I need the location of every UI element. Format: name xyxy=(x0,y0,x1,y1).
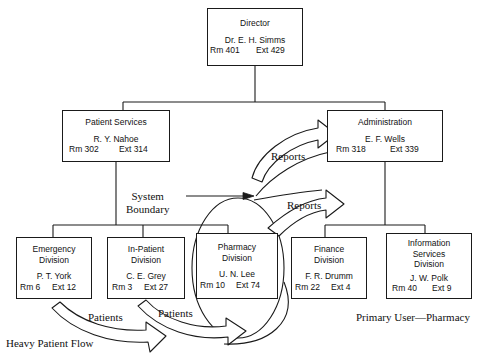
node-emergency-division-room: Rm 6 xyxy=(20,282,52,293)
node-in-patient-division-title: In-Patient xyxy=(128,244,164,255)
node-patient-services-title: Patient Services xyxy=(85,117,146,128)
org-chart-diagram: Director Dr. E. H. Simms Rm 401 Ext 429 … xyxy=(0,0,494,364)
node-pharmacy-division-title2: Division xyxy=(222,253,252,264)
heavy-patient-flow-label: Heavy Patient Flow xyxy=(6,337,93,349)
node-patient-services-room: Rm 302 xyxy=(69,144,119,155)
node-emergency-division[interactable]: Emergency Division P. T. York Rm 6 Ext 1… xyxy=(16,237,92,299)
system-boundary-pointer xyxy=(186,193,254,200)
node-director-person: Dr. E. H. Simms xyxy=(225,35,285,46)
node-administration-ext: Ext 339 xyxy=(390,144,434,155)
node-patient-services-contact: Rm 302 Ext 314 xyxy=(69,144,163,155)
node-information-services-division-ext: Ext 9 xyxy=(432,283,466,294)
node-pharmacy-division-contact: Rm 10 Ext 74 xyxy=(200,280,274,291)
node-administration-title: Administration xyxy=(358,117,412,128)
node-pharmacy-division[interactable]: Pharmacy Division U. N. Lee Rm 10 Ext 74 xyxy=(196,233,278,299)
system-boundary-label-line1: System xyxy=(126,190,169,203)
system-boundary-label-line2: Boundary xyxy=(126,203,169,216)
node-director[interactable]: Director Dr. E. H. Simms Rm 401 Ext 429 xyxy=(207,8,303,66)
node-pharmacy-division-ext: Ext 74 xyxy=(236,280,274,291)
node-in-patient-division-ext: Ext 27 xyxy=(144,282,180,293)
node-patient-services[interactable]: Patient Services R. Y. Nahoe Rm 302 Ext … xyxy=(62,110,170,162)
node-information-services-division-title3: Division xyxy=(414,259,444,270)
node-patient-services-ext: Ext 314 xyxy=(119,144,163,155)
node-in-patient-division-contact: Rm 3 Ext 27 xyxy=(112,282,180,293)
patients-label-1: Patients xyxy=(88,311,123,323)
node-information-services-division-room: Rm 40 xyxy=(392,283,432,294)
node-information-services-division-title: Information xyxy=(408,238,451,249)
node-in-patient-division[interactable]: In-Patient Division C. E. Grey Rm 3 Ext … xyxy=(107,237,185,299)
node-administration-person: E. F. Wells xyxy=(365,134,405,145)
node-finance-division-title: Finance xyxy=(314,244,344,255)
node-in-patient-division-title2: Division xyxy=(131,255,161,266)
node-information-services-division-contact: Rm 40 Ext 9 xyxy=(392,283,466,294)
reports-label-2: Reports xyxy=(287,199,321,211)
node-emergency-division-title2: Division xyxy=(39,255,69,266)
node-pharmacy-division-room: Rm 10 xyxy=(200,280,236,291)
reports-arrow-2 xyxy=(268,190,344,236)
node-finance-division-contact: Rm 22 Ext 4 xyxy=(295,282,363,293)
node-director-ext: Ext 429 xyxy=(256,45,300,56)
node-emergency-division-title: Emergency xyxy=(33,244,76,255)
node-emergency-division-contact: Rm 6 Ext 12 xyxy=(20,282,88,293)
primary-user-label: Primary User—Pharmacy xyxy=(356,311,470,323)
system-boundary-label: System Boundary xyxy=(126,190,169,216)
node-finance-division-ext: Ext 4 xyxy=(331,282,363,293)
node-administration[interactable]: Administration E. F. Wells Rm 318 Ext 33… xyxy=(327,110,443,162)
node-information-services-division-title2: Services xyxy=(413,249,446,260)
node-information-services-division-person: J. W. Polk xyxy=(410,273,448,284)
node-pharmacy-division-person: U. N. Lee xyxy=(219,269,255,280)
node-finance-division-person: F. R. Drumm xyxy=(305,271,353,282)
node-administration-contact: Rm 318 Ext 339 xyxy=(336,144,434,155)
node-finance-division-title2: Division xyxy=(314,255,344,266)
node-patient-services-person: R. Y. Nahoe xyxy=(93,134,138,145)
node-finance-division[interactable]: Finance Division F. R. Drumm Rm 22 Ext 4 xyxy=(291,237,367,299)
node-information-services-division[interactable]: Information Services Division J. W. Polk… xyxy=(386,233,472,299)
node-director-contact: Rm 401 Ext 429 xyxy=(210,45,300,56)
reports-label-1: Reports xyxy=(271,150,305,162)
node-emergency-division-ext: Ext 12 xyxy=(52,282,88,293)
node-in-patient-division-person: C. E. Grey xyxy=(126,271,166,282)
patients-label-2: Patients xyxy=(158,307,193,319)
node-finance-division-room: Rm 22 xyxy=(295,282,331,293)
node-administration-room: Rm 318 xyxy=(336,144,390,155)
node-in-patient-division-room: Rm 3 xyxy=(112,282,144,293)
node-emergency-division-person: P. T. York xyxy=(37,271,72,282)
node-director-room: Rm 401 xyxy=(210,45,256,56)
node-director-title: Director xyxy=(240,18,270,29)
node-pharmacy-division-title: Pharmacy xyxy=(218,242,256,253)
